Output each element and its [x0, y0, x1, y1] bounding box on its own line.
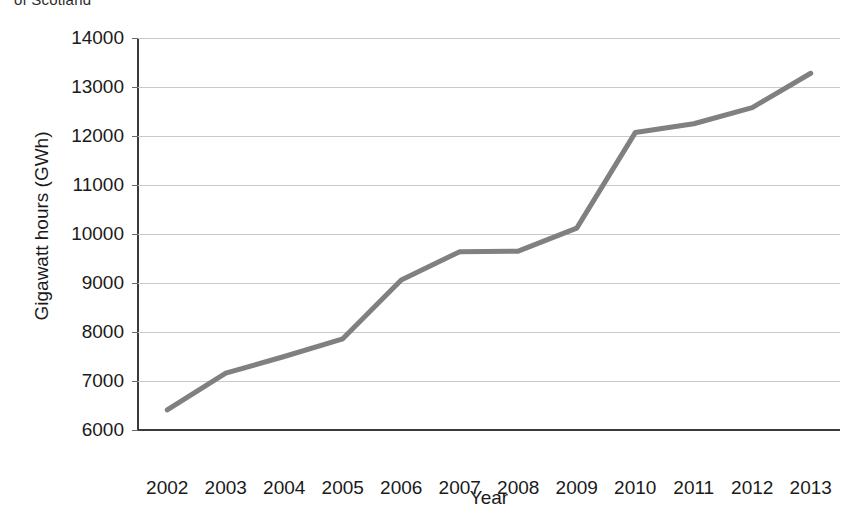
- plot-area: 6000700080009000100001100012000130001400…: [138, 38, 840, 430]
- y-tick-label-7000: 7000: [44, 371, 124, 390]
- x-axis-title: Year: [138, 487, 840, 509]
- y-tick-label-6000: 6000: [44, 420, 124, 439]
- line-series-gigawatt-hours: [167, 73, 811, 410]
- y-tick-label-14000: 14000: [44, 28, 124, 47]
- y-tick-label-12000: 12000: [44, 126, 124, 145]
- data-series-svg: [138, 38, 840, 430]
- caption-fragment: of Scotland: [14, 0, 334, 5]
- chart-figure: of Scotland Gigawatt hours (GWh) 6000700…: [0, 0, 868, 531]
- y-tick-6000: [132, 430, 138, 431]
- y-tick-label-10000: 10000: [44, 224, 124, 243]
- y-tick-label-9000: 9000: [44, 273, 124, 292]
- y-tick-label-8000: 8000: [44, 322, 124, 341]
- y-tick-label-13000: 13000: [44, 77, 124, 96]
- y-tick-label-11000: 11000: [44, 175, 124, 194]
